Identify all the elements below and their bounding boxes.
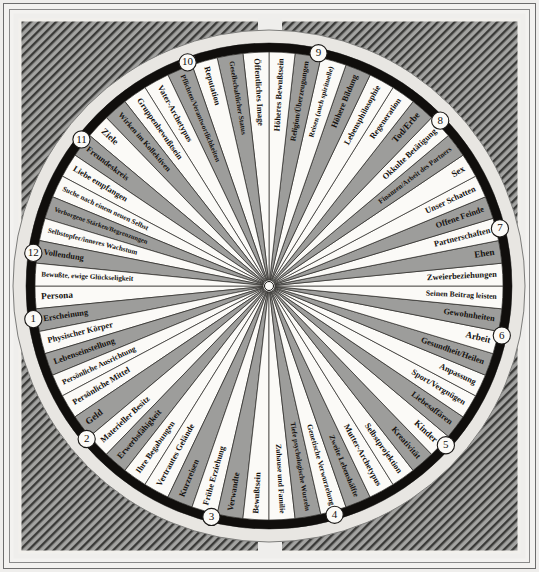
- house-number-marker: 4: [326, 506, 343, 523]
- house-number-marker: 5: [437, 437, 454, 454]
- house-number-marker: 8: [432, 112, 449, 129]
- house-number-marker: 12: [25, 244, 42, 261]
- house-number-marker: 9: [310, 45, 327, 62]
- house-number-marker: 2: [78, 430, 95, 447]
- house-number-marker: 11: [73, 131, 90, 148]
- house-number: 4: [332, 508, 338, 520]
- house-wheel-figure: PersonaErscheinungPhysischer KörperLeben…: [0, 0, 539, 572]
- wheel-center-point: [265, 282, 274, 291]
- house-number: 1: [31, 312, 37, 324]
- house-number-marker: 1: [25, 311, 42, 328]
- house-number: 5: [443, 438, 449, 450]
- sector-label: Persona: [41, 290, 73, 302]
- house-number: 3: [209, 510, 215, 522]
- house-number-marker: 3: [203, 508, 220, 525]
- house-number: 12: [28, 246, 39, 258]
- house-number: 11: [76, 133, 87, 145]
- house-number: 2: [84, 432, 90, 444]
- astrology-wheel-page: PersonaErscheinungPhysischer KörperLeben…: [0, 0, 539, 572]
- house-number-marker: 7: [491, 220, 508, 237]
- house-number: 8: [437, 114, 443, 126]
- house-number: 10: [182, 55, 194, 67]
- house-number: 6: [499, 329, 505, 341]
- house-number: 7: [497, 221, 503, 233]
- house-number-marker: 10: [179, 54, 196, 71]
- house-number-marker: 6: [493, 327, 510, 344]
- house-number: 9: [316, 46, 322, 58]
